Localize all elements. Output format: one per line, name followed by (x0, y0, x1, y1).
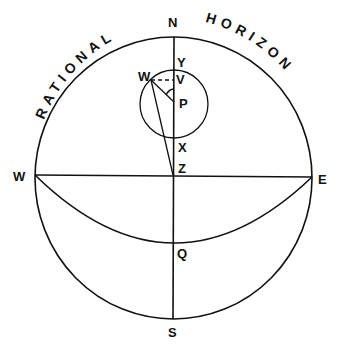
label-east: E (318, 172, 327, 187)
label-q: Q (177, 246, 187, 261)
label-x: X (178, 140, 187, 155)
label-south: S (168, 325, 177, 340)
label-pole: P (179, 96, 188, 111)
label-v: V (176, 72, 185, 87)
star-to-pole-line (151, 80, 174, 102)
hour-angle-arc (166, 89, 174, 95)
meridian-line (173, 37, 174, 319)
label-north: N (168, 15, 177, 30)
star-to-zenith-line (151, 80, 173, 175)
horizon-label: HORIZON (204, 9, 298, 76)
celestial-sphere-diagram: RATIONAL HORIZON N S W E Z P W Y V X Q (0, 0, 344, 356)
label-west: W (13, 169, 26, 184)
label-star: W (138, 69, 151, 84)
label-y: Y (177, 55, 186, 70)
rational-label: RATIONAL (32, 27, 118, 121)
label-zenith: Z (178, 161, 186, 176)
prime-vertical-line (35, 175, 312, 177)
